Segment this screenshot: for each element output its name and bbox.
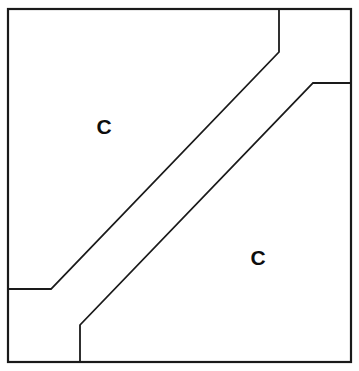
outer-square-frame [8, 9, 351, 362]
diagram-canvas: C C [0, 0, 359, 371]
technical-line-drawing: C C [0, 0, 359, 371]
region-label-upper-left: C [96, 115, 111, 138]
region-label-lower-right: C [250, 246, 265, 269]
